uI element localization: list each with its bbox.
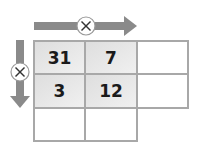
grid-cell-r2c1: 3 (33, 73, 86, 109)
grid-cell-r2c2: 12 (84, 73, 138, 109)
grid-cell-r3c2 (84, 107, 138, 142)
grid-cell-r3c1 (33, 107, 86, 142)
grid-cell-r2c3 (136, 73, 189, 109)
multiplication-grid-diagram: 31 7 3 12 (0, 0, 199, 150)
horizontal-multiply-icon (77, 17, 95, 35)
grid-cell-r1c2: 7 (84, 40, 138, 75)
vertical-multiply-icon (11, 63, 29, 81)
grid-cell-r1c1: 31 (33, 40, 86, 75)
grid-cell-r1c3 (136, 40, 189, 75)
